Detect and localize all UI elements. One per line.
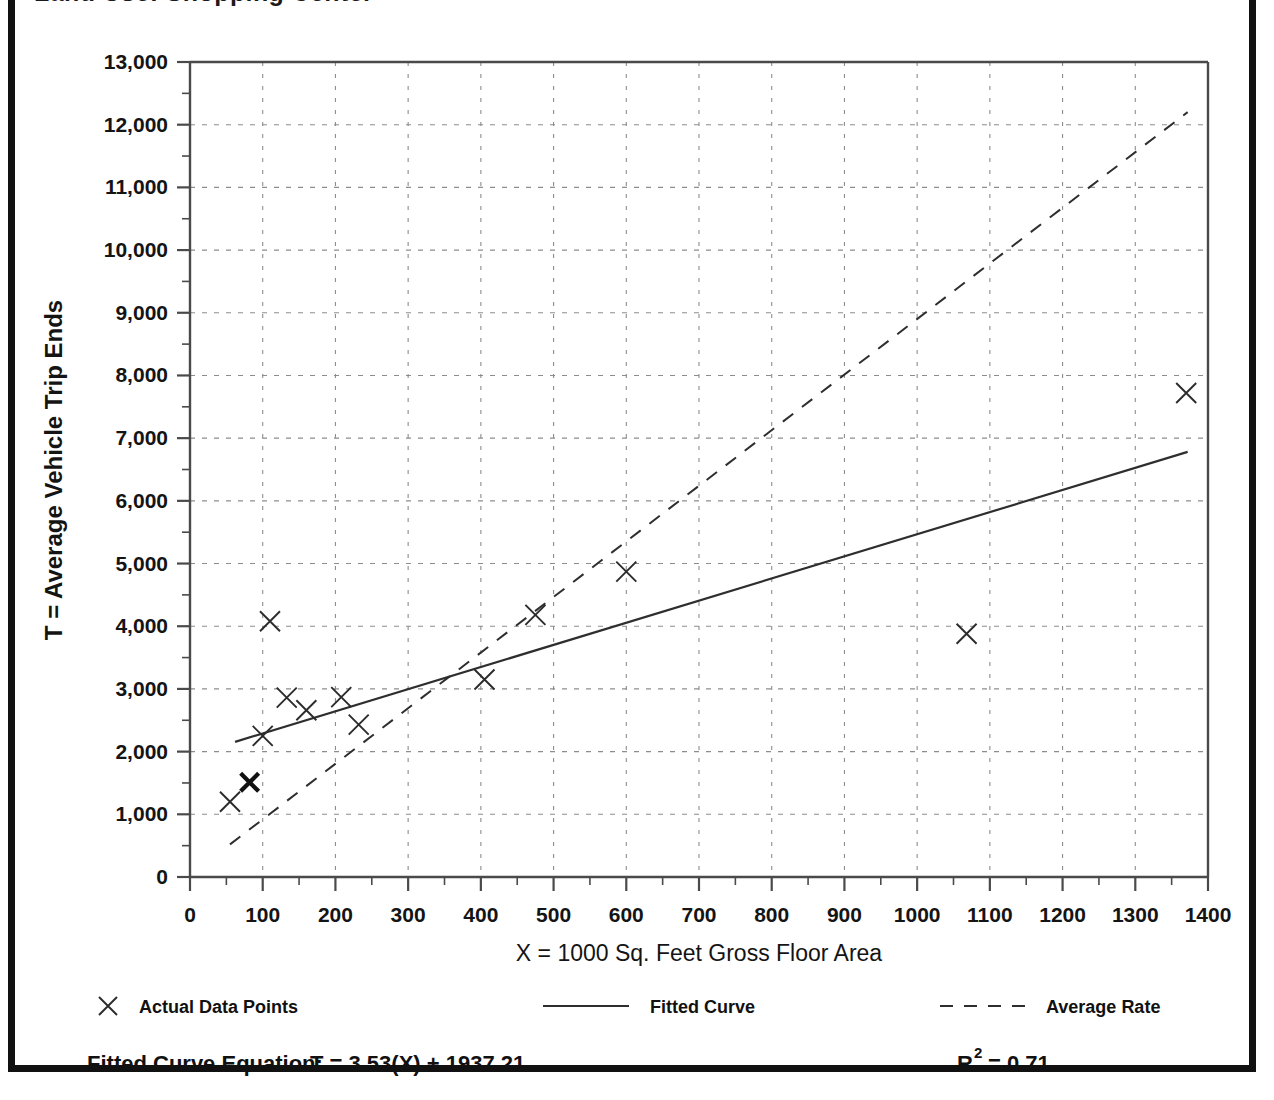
data-point-marker: [260, 611, 280, 631]
data-point-marker: [277, 688, 297, 708]
footer-equation-row: Fitted Curve Equation: T = 3.53(X) + 193…: [87, 1044, 1050, 1076]
y-tick-label: 6,000: [115, 489, 168, 512]
y-tick-label: 10,000: [104, 238, 168, 261]
r-squared-exponent: 2: [974, 1044, 982, 1061]
x-tick-label: 0: [184, 903, 196, 926]
r-squared-value: = 0.71: [988, 1051, 1050, 1076]
fitted-curve-equation-value: T = 3.53(X) + 1937.21: [310, 1051, 525, 1076]
y-axis-ticks: [177, 62, 190, 877]
data-point-marker: [241, 773, 259, 791]
x-tick-label: 1200: [1039, 903, 1086, 926]
data-point-marker: [296, 700, 316, 720]
legend: Actual Data Points Fitted Curve Average …: [99, 997, 1160, 1017]
x-tick-label: 300: [391, 903, 426, 926]
x-tick-label: 400: [463, 903, 498, 926]
y-tick-label: 7,000: [115, 426, 168, 449]
x-tick-label: 200: [318, 903, 353, 926]
x-tick-label: 500: [536, 903, 571, 926]
plot-area-container: T = Average Vehicle Trip Ends 01,0002,00…: [0, 0, 1274, 1100]
y-tick-label: 12,000: [104, 113, 168, 136]
y-tick-label: 9,000: [115, 301, 168, 324]
y-tick-label: 4,000: [115, 614, 168, 637]
x-tick-label: 600: [609, 903, 644, 926]
y-tick-label: 3,000: [115, 677, 168, 700]
x-tick-label: 100: [245, 903, 280, 926]
x-axis-tick-labels: 0100200300400500600700800900100011001200…: [184, 903, 1231, 926]
chart-svg: T = Average Vehicle Trip Ends 01,0002,00…: [0, 0, 1274, 1100]
y-tick-label: 0: [156, 865, 168, 888]
y-tick-label: 8,000: [115, 363, 168, 386]
legend-label-fitted-curve: Fitted Curve: [650, 997, 755, 1017]
vertical-gridlines: [263, 62, 1136, 877]
x-tick-label: 700: [681, 903, 716, 926]
data-point-marker: [1176, 383, 1196, 403]
x-tick-label: 1300: [1112, 903, 1159, 926]
legend-item-actual-data-points[interactable]: Actual Data Points: [99, 997, 298, 1017]
legend-label-actual-data-points: Actual Data Points: [139, 997, 298, 1017]
legend-item-average-rate[interactable]: Average Rate: [940, 997, 1160, 1017]
average-rate-line: [230, 112, 1188, 844]
legend-label-average-rate: Average Rate: [1046, 997, 1160, 1017]
r-squared-base: R: [957, 1051, 973, 1076]
data-point-marker: [349, 715, 369, 735]
x-tick-label: 1000: [894, 903, 941, 926]
x-axis-ticks: [190, 877, 1208, 891]
fitted-curve-line: [235, 452, 1188, 742]
data-point-marker: [474, 670, 494, 690]
y-tick-label: 5,000: [115, 552, 168, 575]
data-point-marker: [220, 792, 240, 812]
fitted-curve-equation-label: Fitted Curve Equation:: [87, 1051, 323, 1076]
data-point-marker: [525, 605, 545, 625]
data-point-marker: [331, 687, 351, 707]
y-axis-tick-labels: 01,0002,0003,0004,0005,0006,0007,0008,00…: [104, 50, 168, 888]
x-tick-label: 1400: [1185, 903, 1232, 926]
y-tick-label: 2,000: [115, 740, 168, 763]
x-marker-icon: [99, 997, 117, 1015]
y-tick-label: 11,000: [105, 175, 168, 198]
legend-item-fitted-curve[interactable]: Fitted Curve: [543, 997, 755, 1017]
x-tick-label: 900: [827, 903, 862, 926]
y-tick-label: 13,000: [104, 50, 168, 73]
x-tick-label: 1100: [967, 903, 1013, 926]
x-tick-label: 800: [754, 903, 789, 926]
x-axis-title: X = 1000 Sq. Feet Gross Floor Area: [516, 940, 882, 966]
data-point-marker: [957, 624, 977, 644]
figure-root: Land Use: Shopping Center T = Average Ve…: [0, 0, 1274, 1100]
y-tick-label: 1,000: [115, 802, 168, 825]
y-axis-title: T = Average Vehicle Trip Ends: [40, 300, 67, 640]
